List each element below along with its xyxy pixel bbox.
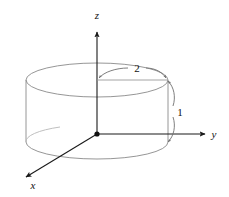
radius-dimension <box>97 68 168 80</box>
radius-arc-left <box>99 68 128 78</box>
origin-dot <box>94 131 99 136</box>
radius-arc-right <box>146 68 166 78</box>
x-axis-line <box>26 134 97 177</box>
height-label: 1 <box>177 106 183 118</box>
x-axis-label: x <box>30 179 36 191</box>
z-axis-label: z <box>94 9 100 21</box>
cylinder-bottom-rear-arc <box>26 127 60 142</box>
cylinder-diagram: 2 1 z y x <box>0 0 229 197</box>
height-arc-upper <box>168 81 174 106</box>
height-arc-lower <box>168 117 174 142</box>
height-dimension <box>168 81 174 142</box>
cylinder-bottom-front-arc <box>26 142 168 159</box>
figure-canvas: 2 1 z y x <box>0 0 229 197</box>
radius-label: 2 <box>134 62 140 74</box>
y-axis-label: y <box>211 128 217 140</box>
